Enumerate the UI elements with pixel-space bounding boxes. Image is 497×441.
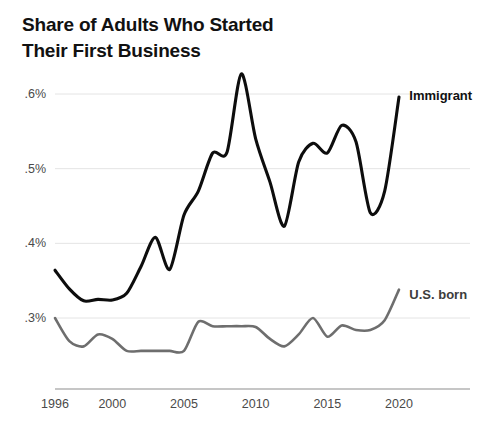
x-tick-label: 2020 — [385, 397, 413, 411]
x-tick-label: 2005 — [170, 397, 198, 411]
line-chart: .3%.4%.5%.6% 199620002005201020152020 Im… — [0, 0, 497, 441]
series-labels: ImmigrantU.S. born — [409, 88, 473, 302]
chart-container: Share of Adults Who Started Their First … — [0, 0, 497, 441]
x-tick-label: 2015 — [313, 397, 341, 411]
x-tick-label: 2000 — [98, 397, 126, 411]
x-tick-label: 1996 — [41, 397, 69, 411]
y-axis-labels: .3%.4%.5%.6% — [24, 87, 46, 325]
series-label-immigrant: Immigrant — [409, 88, 473, 103]
y-tick-label: .5% — [24, 162, 46, 176]
y-tick-label: .4% — [24, 236, 46, 250]
y-tick-label: .3% — [24, 311, 46, 325]
series-label-u-s-born: U.S. born — [409, 287, 467, 302]
x-tick-label: 2010 — [242, 397, 270, 411]
series-lines — [55, 74, 399, 353]
y-tick-label: .6% — [24, 87, 46, 101]
series-line-immigrant — [55, 74, 399, 301]
gridlines — [55, 94, 470, 318]
x-axis-labels: 199620002005201020152020 — [41, 397, 413, 411]
